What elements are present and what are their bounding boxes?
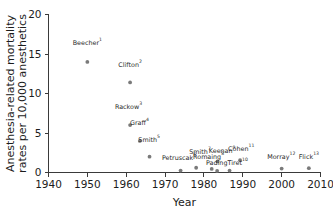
x-axis-title: Year — [172, 196, 197, 209]
x-tick-label: 1990 — [229, 178, 256, 190]
data-point — [128, 81, 132, 85]
data-point-label: Morray12 — [267, 151, 295, 162]
data-point — [307, 166, 311, 170]
data-point-label: Tiret10 — [227, 156, 248, 167]
plot-area: 1940195019601970198019902000201005101520… — [0, 0, 333, 212]
y-tick-label: 10 — [28, 87, 41, 99]
data-point — [85, 60, 89, 64]
x-tick-label: 1970 — [152, 178, 179, 190]
x-tick-label: 1960 — [113, 178, 140, 190]
data-point — [210, 167, 214, 171]
data-point — [228, 169, 232, 173]
y-axis-title-line-2: rates per 10,000 anesthetics — [16, 14, 29, 173]
data-point-label: Smith5 — [138, 133, 160, 144]
data-point-label: Cohen11 — [228, 142, 254, 153]
data-point-label: Flick13 — [299, 150, 319, 161]
data-point-label: Rackow3 — [115, 101, 142, 112]
anesthesia-mortality-scatter-chart: 1940195019601970198019902000201005101520… — [0, 0, 333, 212]
x-tick-label: 2010 — [307, 178, 333, 190]
data-point — [280, 167, 284, 171]
data-point — [148, 155, 152, 159]
data-point — [179, 169, 183, 173]
x-tick-label: 1950 — [74, 178, 101, 190]
x-tick-label: 1940 — [35, 178, 62, 190]
y-tick-label: 20 — [28, 8, 41, 20]
tick-labels: 1940195019601970198019902000201005101520 — [28, 8, 333, 189]
data-point-label: Pading — [206, 159, 227, 167]
data-point-label: Beecher1 — [73, 37, 102, 48]
data-point-labels: Beecher1Clifton2Rackow3Graff4Smith5Petru… — [73, 37, 319, 167]
data-point-label: Clifton2 — [118, 58, 142, 69]
x-tick-label: 1980 — [191, 178, 218, 190]
y-tick-label: 0 — [35, 166, 42, 178]
x-tick-label: 2000 — [268, 178, 295, 190]
data-point — [215, 169, 219, 173]
y-tick-label: 15 — [28, 48, 41, 60]
y-tick-label: 5 — [35, 127, 42, 139]
data-point — [194, 166, 198, 170]
data-point-label: Graff4 — [130, 117, 149, 128]
